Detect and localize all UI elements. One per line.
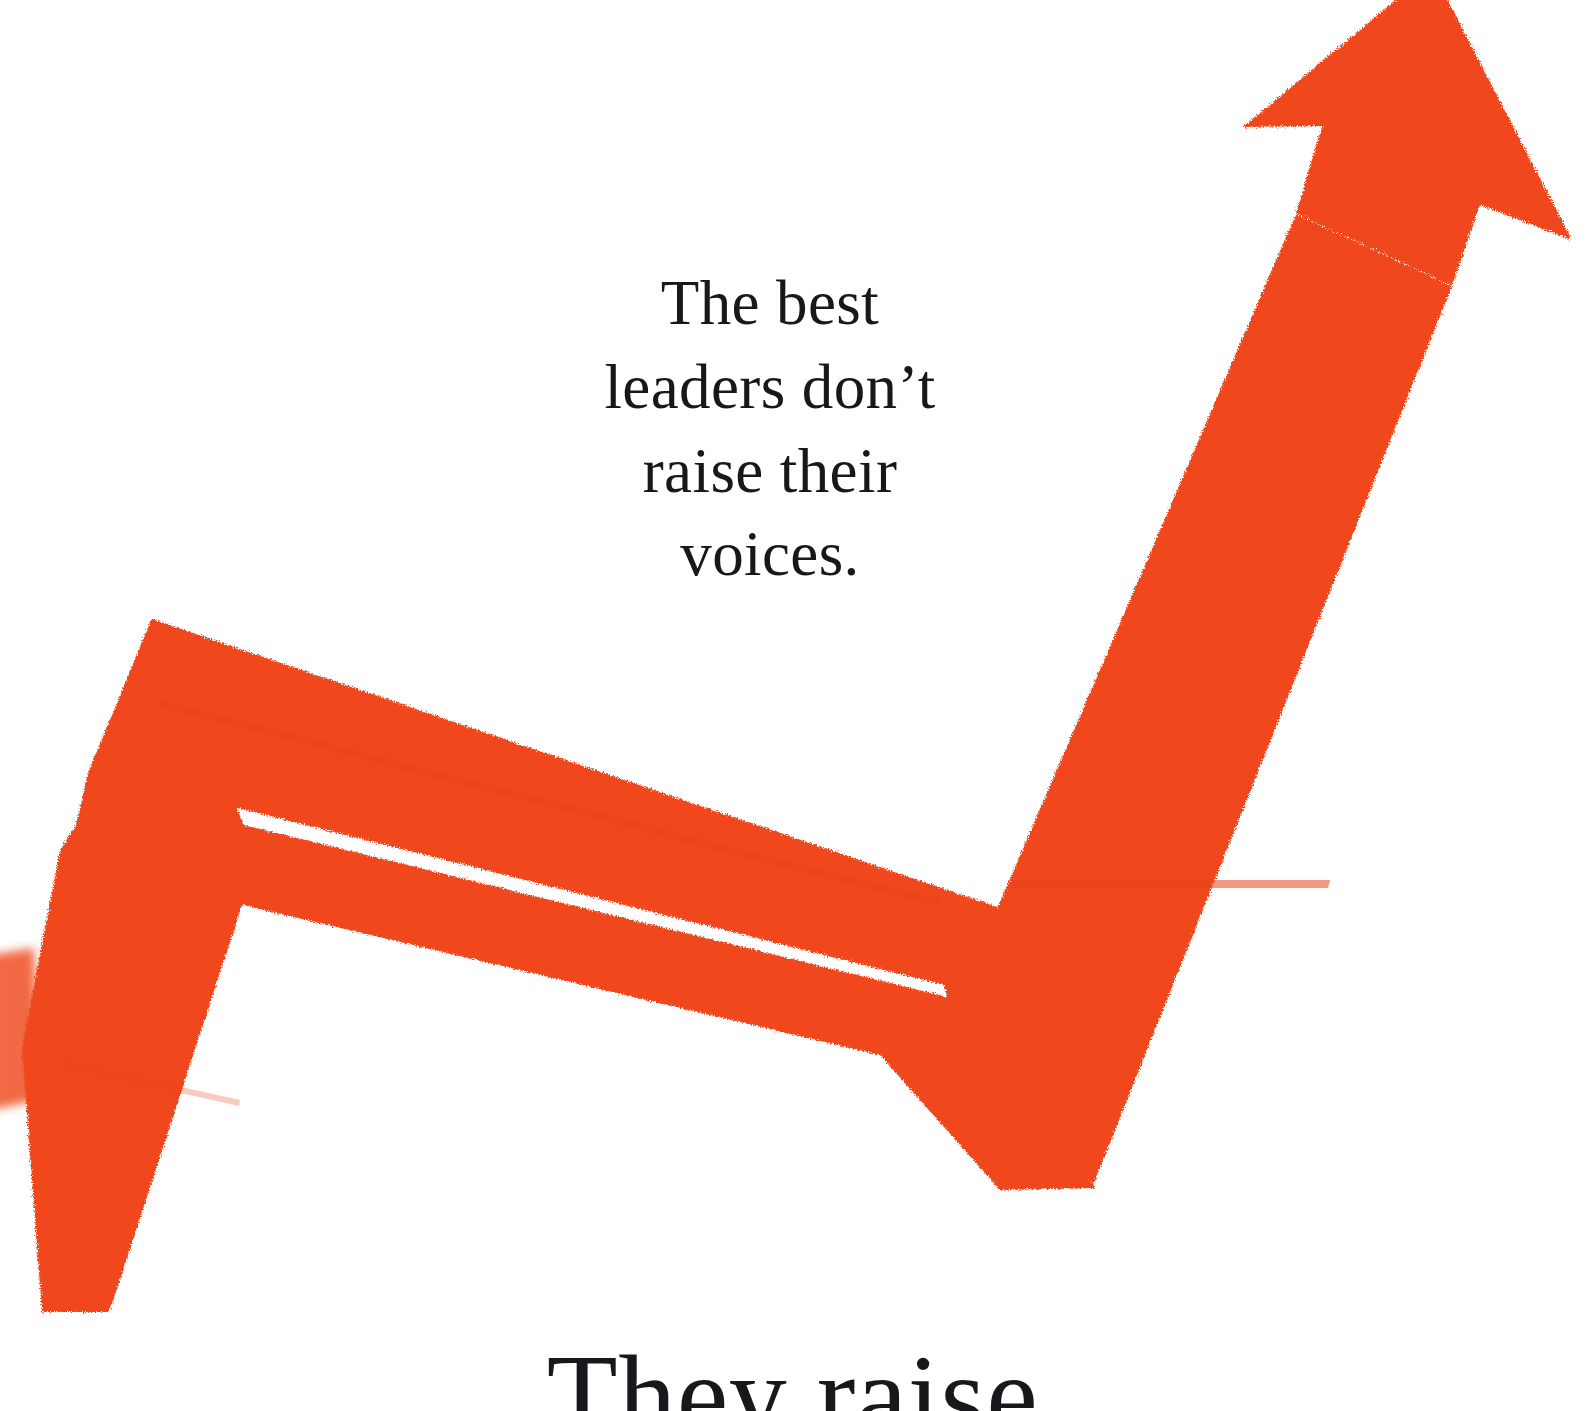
bottom-headline: They raise — [0, 1338, 1585, 1411]
arrow-segment-tail-left-leg — [26, 619, 258, 1311]
upward-trend-arrow-artwork — [0, 0, 1585, 1411]
arrow-segment-tail-left-leg-lower — [22, 790, 252, 1312]
quote-line-1: The best — [512, 262, 1028, 346]
quote-line-4: voices. — [512, 513, 1028, 597]
arrowhead — [1243, 0, 1572, 286]
arrow-collage-seams — [59, 700, 940, 1106]
arrow-stem-seam — [1010, 880, 1330, 888]
arrow-segment-descending-upper — [90, 619, 1090, 1185]
arrow-segment-ascending-stem — [960, 214, 1452, 1185]
arrow-segment-descending-lower — [60, 790, 1095, 1190]
quote-line-2: leaders don’t — [512, 346, 1028, 430]
page-edge-bleed — [0, 948, 40, 1110]
book-page: The best leaders don’t raise their voice… — [0, 0, 1585, 1411]
quote-text: The best leaders don’t raise their voice… — [512, 262, 1028, 597]
quote-line-3: raise their — [512, 430, 1028, 514]
